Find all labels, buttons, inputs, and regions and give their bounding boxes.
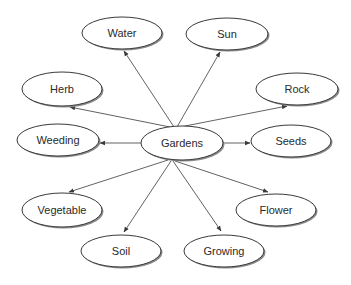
arrow-gardens-to-sun — [177, 52, 220, 127]
node-label: Herb — [50, 83, 74, 95]
node-label: Growing — [204, 245, 245, 257]
node-soil: Soil — [81, 235, 163, 269]
arrow-gardens-to-growing — [173, 161, 221, 231]
node-label: Vegetable — [38, 204, 87, 216]
node-seeds: Seeds — [251, 125, 333, 159]
node-label: Rock — [284, 83, 310, 95]
arrow-gardens-to-herb — [70, 107, 170, 127]
node-label: Weeding — [36, 134, 79, 146]
node-label: Gardens — [161, 137, 204, 149]
arrow-gardens-to-vegetable — [69, 160, 168, 192]
node-label: Flower — [259, 204, 292, 216]
arrow-gardens-to-water — [124, 51, 174, 127]
node-rock: Rock — [256, 73, 340, 107]
arrow-gardens-to-rock — [180, 106, 287, 127]
concept-map-diagram: WaterSunHerbRockWeedingSeedsVegetableFlo… — [0, 0, 351, 285]
node-weeding: Weeding — [17, 124, 101, 158]
node-herb: Herb — [22, 72, 104, 108]
node-vegetable: Vegetable — [22, 193, 104, 229]
nodes-layer: WaterSunHerbRockWeedingSeedsVegetableFlo… — [17, 17, 340, 269]
node-sun: Sun — [186, 18, 270, 52]
node-label: Seeds — [275, 135, 307, 147]
node-flower: Flower — [236, 194, 318, 228]
node-label: Water — [108, 27, 137, 39]
arrow-gardens-to-flower — [175, 161, 268, 192]
center-node-gardens: Gardens — [141, 126, 225, 162]
node-label: Soil — [112, 245, 130, 257]
node-label: Sun — [217, 28, 237, 40]
node-growing: Growing — [184, 235, 266, 269]
node-water: Water — [82, 17, 164, 51]
